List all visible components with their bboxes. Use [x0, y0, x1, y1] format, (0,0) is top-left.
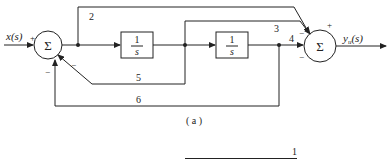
output-label: yu(s)	[342, 32, 363, 46]
sum2-left-minus: −	[299, 52, 304, 62]
sum2-sigma: Σ	[316, 39, 324, 54]
input-label: x(s)	[5, 30, 23, 43]
sum2-plus-sign: +	[327, 20, 332, 30]
sum1-sigma: Σ	[44, 38, 52, 53]
path-label-3: 3	[274, 23, 279, 34]
block2-denominator: s	[230, 46, 234, 57]
path-6	[55, 45, 279, 106]
caption: ( a )	[186, 115, 202, 127]
sum2-upper-minus: −	[299, 28, 304, 38]
path-label-4: 4	[289, 33, 294, 44]
sum1-bottom-minus: −	[45, 67, 50, 77]
path-label-6: 6	[136, 94, 141, 105]
sum1-diag-minus: −	[71, 60, 76, 70]
path-label-5: 5	[136, 72, 141, 83]
path-label-2: 2	[89, 11, 94, 22]
block1-denominator: s	[135, 46, 139, 57]
block1-numerator: 1	[135, 34, 140, 45]
block-diagram: x(s) + Σ 2 1 s 3 5 − 1 s 4 6 − Σ + − − y…	[0, 0, 389, 159]
formula-numerator: 1	[292, 146, 297, 157]
block2-numerator: 1	[230, 34, 235, 45]
